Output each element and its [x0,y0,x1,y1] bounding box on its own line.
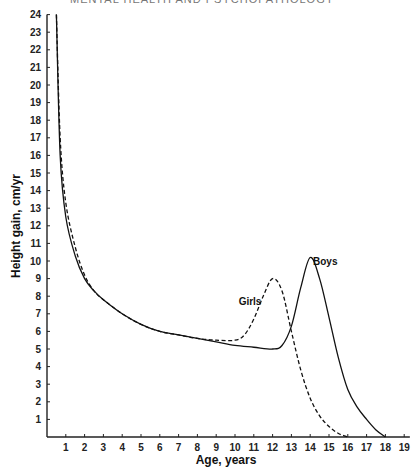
annotations: GirlsBoys [239,256,338,307]
x-tick-label: 5 [138,442,144,453]
x-tick-label: 3 [101,442,107,453]
series-lines [56,15,385,437]
x-tick-label: 19 [399,442,411,453]
x-tick-label: 12 [267,442,279,453]
y-tick-label: 19 [30,97,42,108]
x-tick-label: 4 [119,442,125,453]
x-tick-label: 16 [342,442,354,453]
x-tick-label: 17 [361,442,373,453]
x-tick-label: 2 [82,442,88,453]
y-tick-label: 13 [30,203,42,214]
x-tick-label: 18 [380,442,392,453]
y-tick-label: 12 [30,220,42,231]
y-tick-label: 4 [35,361,41,372]
axes [47,15,410,437]
y-tick-label: 18 [30,115,42,126]
x-tick-label: 11 [249,442,260,453]
y-tick-label: 21 [30,62,42,73]
y-tick-label: 14 [30,185,42,196]
x-tick-label: 13 [286,442,298,453]
x-tick-label: 10 [229,442,241,453]
x-tick-label: 9 [213,442,219,453]
x-tick-label: 6 [157,442,163,453]
y-tick-label: 20 [30,80,42,91]
y-tick-label: 16 [30,150,42,161]
y-tick-label: 11 [30,238,41,249]
y-tick-label: 3 [35,379,41,390]
y-tick-label: 22 [30,44,42,55]
label-boys: Boys [313,256,338,267]
series-boys-line [56,15,385,437]
y-tick-label: 24 [30,9,42,20]
y-tick-label: 9 [35,273,41,284]
x-tick-label: 15 [323,442,335,453]
label-girls: Girls [239,296,262,307]
x-tick-label: 8 [195,442,201,453]
y-tick-label: 7 [35,308,41,319]
x-tick-label: 1 [63,442,69,453]
x-tick-label: 14 [305,442,317,453]
x-axis-label: Age, years [196,453,257,467]
series-girls-line [56,15,347,437]
y-tick-label: 2 [35,396,41,407]
y-tick-label: 23 [30,27,42,38]
y-tick-label: 6 [35,326,41,337]
y-axis-label: Height gain, cm/yr [9,174,23,278]
y-tick-label: 17 [30,132,42,143]
y-tick-label: 5 [35,344,41,355]
y-tick-label: 8 [35,291,41,302]
y-tick-label: 1 [35,414,41,425]
x-tick-label: 7 [176,442,182,453]
y-tick-label: 10 [30,256,42,267]
y-tick-label: 15 [30,168,42,179]
height-velocity-chart: 123456789101112131415161718192021222324 … [0,0,414,471]
